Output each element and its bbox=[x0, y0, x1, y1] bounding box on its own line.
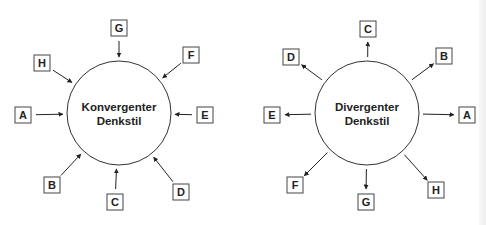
thinking-styles-diagram: Konvergenter Denkstil ABCDEFGH Divergent… bbox=[0, 0, 486, 225]
arrow-outward-f bbox=[304, 153, 327, 176]
convergent-diagram: Konvergenter Denkstil ABCDEFGH bbox=[15, 20, 213, 210]
convergent-title-line2: Denkstil bbox=[97, 115, 142, 127]
node-label-g: G bbox=[362, 196, 371, 208]
node-label-f: F bbox=[188, 49, 195, 61]
arrow-inward-h bbox=[53, 70, 72, 82]
scan-edge-strip bbox=[479, 0, 486, 225]
arrow-outward-h bbox=[404, 155, 427, 181]
divergent-title-line2: Denkstil bbox=[345, 115, 390, 127]
node-label-e: E bbox=[268, 109, 275, 121]
arrow-inward-f bbox=[163, 63, 181, 78]
arrow-outward-d bbox=[302, 65, 322, 80]
arrow-outward-a bbox=[423, 114, 454, 115]
arrow-inward-c bbox=[116, 169, 117, 189]
divergent-diagram: Divergenter Denkstil ABCDEFGH bbox=[264, 21, 475, 210]
convergent-title-line1: Konvergenter bbox=[82, 101, 157, 113]
node-label-h: H bbox=[432, 184, 440, 196]
divergent-circle bbox=[315, 61, 419, 165]
node-label-d: D bbox=[287, 51, 295, 63]
node-label-e: E bbox=[201, 109, 208, 121]
node-label-c: C bbox=[364, 23, 372, 35]
node-label-c: C bbox=[111, 196, 119, 208]
node-label-g: G bbox=[115, 22, 124, 34]
arrow-outward-b bbox=[412, 64, 434, 80]
diagram-canvas: Konvergenter Denkstil ABCDEFGH Divergent… bbox=[0, 0, 486, 225]
node-label-h: H bbox=[38, 57, 46, 69]
node-label-a: A bbox=[463, 109, 471, 121]
arrow-inward-d bbox=[154, 157, 173, 182]
node-label-b: B bbox=[440, 50, 448, 62]
arrow-outward-e bbox=[285, 114, 311, 115]
divergent-title-line1: Divergenter bbox=[335, 101, 399, 113]
arrow-inward-a bbox=[36, 114, 63, 115]
node-label-a: A bbox=[19, 109, 27, 121]
arrow-inward-b bbox=[61, 154, 81, 176]
convergent-circle bbox=[67, 61, 171, 165]
node-label-f: F bbox=[292, 179, 299, 191]
node-label-b: B bbox=[48, 179, 56, 191]
node-label-d: D bbox=[177, 186, 185, 198]
